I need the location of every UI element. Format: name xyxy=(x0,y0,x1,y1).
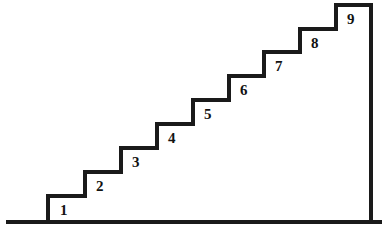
step-label-8: 8 xyxy=(311,36,319,51)
step-label-2: 2 xyxy=(96,179,104,194)
staircase-drawing xyxy=(0,0,387,234)
step-label-9: 9 xyxy=(347,12,355,27)
step-label-1: 1 xyxy=(60,203,68,218)
step-label-7: 7 xyxy=(275,59,283,74)
staircase-diagram: 1 2 3 4 5 6 7 8 9 xyxy=(0,0,387,234)
step-label-5: 5 xyxy=(204,107,212,122)
step-label-6: 6 xyxy=(240,83,248,98)
step-label-3: 3 xyxy=(132,155,140,170)
step-label-4: 4 xyxy=(168,131,176,146)
